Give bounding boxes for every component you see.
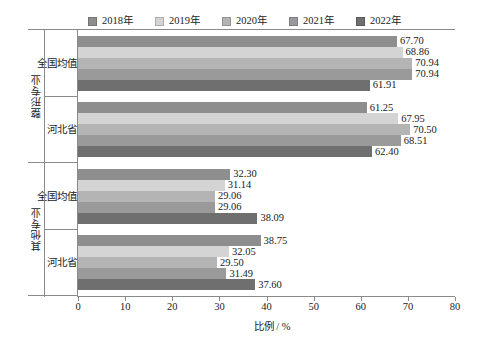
category-label-text: 河北省 bbox=[47, 121, 77, 136]
category-label-text: 全国均值 bbox=[37, 55, 77, 70]
value-axis: 01020304050607080 bbox=[77, 297, 455, 317]
bar bbox=[78, 169, 230, 180]
legend-entry[interactable]: 2019年 bbox=[155, 16, 200, 27]
legend-swatch-icon bbox=[289, 17, 298, 26]
legend-label: 2019年 bbox=[169, 16, 200, 27]
legend-swatch-icon bbox=[88, 17, 97, 26]
x-tick-label: 60 bbox=[356, 301, 367, 312]
legend-label: 2021年 bbox=[303, 16, 334, 27]
bar bbox=[78, 69, 412, 80]
category-axis-cap bbox=[28, 29, 77, 30]
category-label-text: 全国均值 bbox=[37, 188, 77, 203]
category-label: 河北省 bbox=[44, 229, 77, 296]
bar-value-label: 68.51 bbox=[404, 135, 428, 146]
bar-value-label: 68.86 bbox=[406, 46, 430, 57]
bar bbox=[78, 124, 410, 135]
bar bbox=[78, 202, 215, 213]
bar bbox=[78, 279, 255, 290]
legend-label: 2020年 bbox=[236, 16, 267, 27]
bar-value-label: 32.30 bbox=[233, 168, 257, 179]
legend-entry[interactable]: 2022年 bbox=[356, 16, 401, 27]
legend-entry[interactable]: 2020年 bbox=[222, 16, 267, 27]
bar-value-label: 70.94 bbox=[415, 68, 439, 79]
category-separator bbox=[44, 96, 77, 97]
category-axis: 整形专业全国均值河北省其他专业全国均值河北省 bbox=[28, 29, 77, 297]
bar bbox=[78, 268, 226, 279]
bar-value-label: 67.95 bbox=[401, 113, 425, 124]
bar bbox=[78, 180, 225, 191]
bar-value-label: 29.06 bbox=[218, 190, 242, 201]
category-axis-line bbox=[44, 29, 45, 297]
x-axis-title-text: 比例 / % bbox=[254, 318, 291, 333]
legend-entry[interactable]: 2021年 bbox=[289, 16, 334, 27]
bar bbox=[78, 146, 372, 157]
category-label: 全国均值 bbox=[44, 29, 77, 96]
bar bbox=[78, 213, 257, 224]
bar bbox=[78, 58, 412, 69]
legend-swatch-icon bbox=[222, 17, 231, 26]
x-tick-label: 30 bbox=[214, 301, 225, 312]
bar-value-label: 38.75 bbox=[264, 235, 288, 246]
bar-value-label: 32.05 bbox=[232, 246, 256, 257]
bar bbox=[78, 257, 217, 268]
bar-value-label: 61.25 bbox=[370, 102, 394, 113]
major-group-label-text: 整形专业 bbox=[29, 74, 44, 118]
chart-legend: 2018年2019年2020年2021年2022年 bbox=[0, 13, 489, 29]
x-axis-title: 比例 / % bbox=[0, 318, 489, 333]
bar bbox=[78, 246, 229, 257]
bar bbox=[78, 191, 215, 202]
x-tick-label: 80 bbox=[450, 301, 461, 312]
legend-swatch-icon bbox=[356, 17, 365, 26]
bar-value-label: 38.09 bbox=[260, 212, 284, 223]
x-tick-label: 50 bbox=[308, 301, 319, 312]
bar bbox=[78, 47, 403, 58]
bar-value-label: 62.40 bbox=[375, 146, 399, 157]
legend-swatch-icon bbox=[155, 17, 164, 26]
x-tick-label: 40 bbox=[261, 301, 272, 312]
category-label-text: 河北省 bbox=[47, 254, 77, 269]
bar-value-label: 70.94 bbox=[415, 57, 439, 68]
x-tick-label: 10 bbox=[120, 301, 131, 312]
legend-label: 2022年 bbox=[370, 16, 401, 27]
bar bbox=[78, 235, 261, 246]
legend-entry[interactable]: 2018年 bbox=[88, 16, 133, 27]
x-tick-label: 70 bbox=[403, 301, 414, 312]
legend-label: 2018年 bbox=[102, 16, 133, 27]
bar-value-label: 70.50 bbox=[413, 124, 437, 135]
bar-value-label: 29.06 bbox=[218, 201, 242, 212]
bar bbox=[78, 102, 367, 113]
major-group-label: 其他专业 bbox=[28, 162, 44, 295]
category-label: 河北省 bbox=[44, 96, 77, 163]
x-tick-label: 20 bbox=[167, 301, 178, 312]
major-group-separator bbox=[28, 162, 77, 163]
bar-value-label: 37.60 bbox=[258, 279, 282, 290]
bars-layer: 67.7068.8670.9470.9461.9161.2567.9570.50… bbox=[78, 30, 455, 296]
bar bbox=[78, 113, 398, 124]
bar bbox=[78, 80, 370, 91]
major-group-label: 整形专业 bbox=[28, 29, 44, 162]
bar-value-label: 31.14 bbox=[228, 179, 252, 190]
bar-value-label: 29.50 bbox=[220, 257, 244, 268]
bar bbox=[78, 135, 401, 146]
bar-value-label: 67.70 bbox=[400, 35, 424, 46]
bar bbox=[78, 36, 397, 47]
category-separator bbox=[44, 229, 77, 230]
chart-figure: 2018年2019年2020年2021年2022年 整形专业全国均值河北省其他专… bbox=[0, 0, 489, 339]
category-label: 全国均值 bbox=[44, 162, 77, 229]
bar-value-label: 61.91 bbox=[373, 79, 397, 90]
bar-value-label: 31.49 bbox=[229, 268, 253, 279]
x-tick-label: 0 bbox=[75, 301, 80, 312]
major-group-label-text: 其他专业 bbox=[29, 207, 44, 251]
category-axis-cap bbox=[28, 295, 77, 296]
